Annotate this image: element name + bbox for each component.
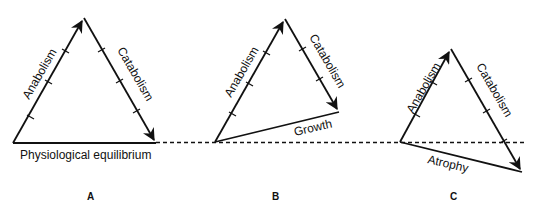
panel-a-anabolism-label: Anabolism: [19, 46, 59, 102]
baseline-label: Physiological equilibrium: [20, 148, 151, 162]
panel-c-label: C: [450, 191, 457, 202]
panel-b-label: B: [272, 191, 279, 202]
panel-a-catabolism-label: Catabolism: [114, 45, 156, 104]
metabolism-triangles-diagram: Anabolism Catabolism Physiological equil…: [0, 0, 536, 211]
panel-b-growth-label: Growth: [293, 117, 334, 139]
panel-a-label: A: [87, 191, 94, 202]
panel-b-catabolism-label: Catabolism: [306, 32, 348, 91]
panel-c-catabolism-label: Catabolism: [473, 61, 515, 120]
panel-c-anabolism-label: Anabolism: [403, 60, 443, 116]
panel-c-atrophy-label: Atrophy: [426, 152, 469, 175]
